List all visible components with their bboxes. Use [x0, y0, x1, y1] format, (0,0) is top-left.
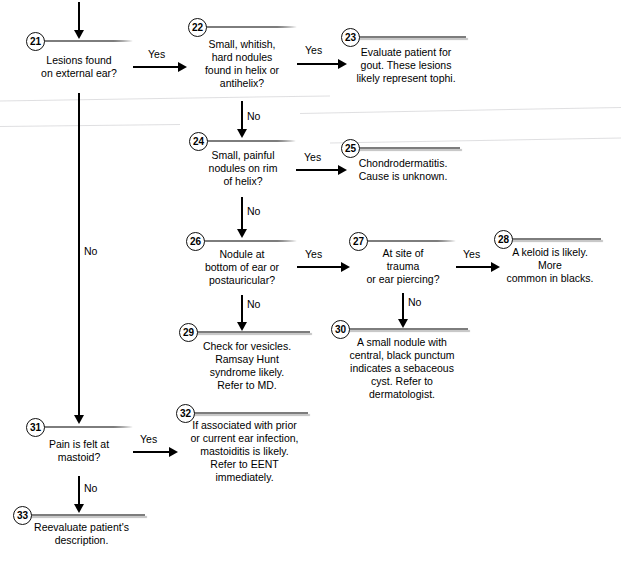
node-22-badge: 22 — [188, 18, 207, 37]
node-22-label: Small, whitish, hard nodules found in he… — [187, 26, 297, 101]
arrowhead-24-no — [237, 229, 247, 238]
node-23-badge: 23 — [341, 28, 360, 47]
edge-label-27-yes: Yes — [463, 248, 480, 260]
node-31-badge: 31 — [26, 418, 45, 437]
node-25[interactable]: Chondrodermatitis. Cause is unknown. — [346, 147, 460, 192]
edge-label-26-no: No — [247, 298, 260, 310]
node-33[interactable]: Reevaluate patient's description. — [18, 514, 145, 554]
arrowhead-22-no — [237, 129, 247, 138]
connector-22-yes — [297, 63, 341, 65]
node-24[interactable]: Small, painful nodules on rim of helix? — [190, 140, 296, 197]
node-23-label: Evaluate patient for gout. These lesions… — [346, 36, 466, 95]
node-24-label: Small, painful nodules on rim of helix? — [190, 140, 296, 197]
node-28-label: A keloid is likely. More common in black… — [499, 238, 601, 293]
arrowhead-31-yes — [169, 447, 178, 457]
node-27-label: At site of trauma or ear piercing? — [350, 240, 456, 293]
edge-label-24-yes: Yes — [304, 151, 321, 163]
edge-label-31-yes: Yes — [140, 433, 157, 445]
scan-artifact-line — [0, 124, 180, 127]
node-22[interactable]: Small, whitish, hard nodules found in he… — [187, 26, 297, 101]
connector-21-yes — [133, 66, 180, 68]
arrowhead-21-no — [74, 415, 84, 424]
node-32-label: If associated with prior or current ear … — [181, 412, 308, 490]
node-32-badge: 32 — [176, 404, 195, 423]
node-27-badge: 27 — [349, 232, 368, 251]
node-26-label: Nodule at bottom of ear or postauricular… — [187, 240, 297, 295]
node-27[interactable]: At site of trauma or ear piercing? — [350, 240, 456, 293]
connector-31-no — [78, 476, 80, 506]
node-30-badge: 30 — [331, 320, 350, 339]
node-30-label: A small nodule with central, black punct… — [336, 328, 468, 408]
node-29-label: Check for vesicles. Ramsay Hunt syndrome… — [184, 331, 310, 401]
connector-27-yes — [456, 266, 494, 268]
node-30[interactable]: A small nodule with central, black punct… — [336, 328, 468, 408]
connector-26-no — [241, 295, 243, 324]
edge-label-27-no: No — [408, 296, 421, 308]
connector-22-no — [241, 101, 243, 131]
edge-label-31-no: No — [84, 482, 97, 494]
arrowhead-26-no — [237, 322, 247, 331]
arrowhead-26-yes — [341, 262, 350, 272]
edge-label-22-no: No — [247, 110, 260, 122]
arrowhead-27-no — [398, 319, 408, 328]
scan-artifact-line — [300, 107, 621, 114]
connector-24-yes — [296, 169, 341, 171]
node-33-badge: 33 — [13, 506, 32, 525]
edge-label-21-yes: Yes — [148, 48, 165, 60]
connector-entry-to-21 — [78, 2, 80, 32]
edge-label-26-yes: Yes — [305, 248, 322, 260]
node-25-badge: 25 — [341, 139, 360, 158]
node-24-badge: 24 — [189, 132, 208, 151]
edge-label-22-yes: Yes — [305, 44, 322, 56]
arrowhead-21-yes — [178, 62, 187, 72]
connector-21-no — [78, 93, 80, 417]
node-33-label: Reevaluate patient's description. — [18, 514, 145, 554]
edge-label-21-no: No — [84, 245, 97, 257]
node-23[interactable]: Evaluate patient for gout. These lesions… — [346, 36, 466, 95]
arrowhead-31-no — [74, 504, 84, 513]
flowchart-canvas: Lesions found on external ear? 21 Yes No… — [0, 0, 621, 568]
node-28-badge: 28 — [494, 230, 513, 249]
node-32[interactable]: If associated with prior or current ear … — [181, 412, 308, 490]
connector-26-yes — [297, 266, 344, 268]
edge-label-24-no: No — [247, 205, 260, 217]
node-25-label: Chondrodermatitis. Cause is unknown. — [346, 147, 460, 192]
connector-27-no — [402, 293, 404, 321]
arrowhead-entry-to-21 — [74, 30, 84, 39]
arrowhead-22-yes — [338, 59, 347, 69]
node-26[interactable]: Nodule at bottom of ear or postauricular… — [187, 240, 297, 295]
node-29-badge: 29 — [179, 323, 198, 342]
node-26-badge: 26 — [186, 232, 205, 251]
scan-artifact-line — [330, 137, 621, 143]
arrowhead-27-yes — [491, 262, 500, 272]
arrowhead-24-yes — [338, 165, 347, 175]
connector-24-no — [241, 197, 243, 231]
node-21-badge: 21 — [26, 32, 45, 51]
node-28[interactable]: A keloid is likely. More common in black… — [499, 238, 601, 293]
connector-31-yes — [133, 451, 172, 453]
node-29[interactable]: Check for vesicles. Ramsay Hunt syndrome… — [184, 331, 310, 401]
